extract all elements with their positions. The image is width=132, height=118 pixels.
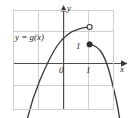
y-tick-label-1: 1 [76, 42, 81, 51]
function-graph-figure: y x 0 1 1 y = g(x) [0, 0, 132, 118]
y-axis-label: y [67, 4, 71, 13]
open-circle-point [87, 25, 92, 30]
x-tick-label-1: 1 [86, 66, 91, 75]
graph-canvas [0, 0, 132, 118]
filled-dot-point [87, 42, 92, 47]
x-axis-label: x [120, 65, 124, 74]
function-equation-label: y = g(x) [15, 33, 44, 42]
curve-right-branch [91, 45, 120, 118]
origin-tick-label: 0 [59, 66, 64, 75]
